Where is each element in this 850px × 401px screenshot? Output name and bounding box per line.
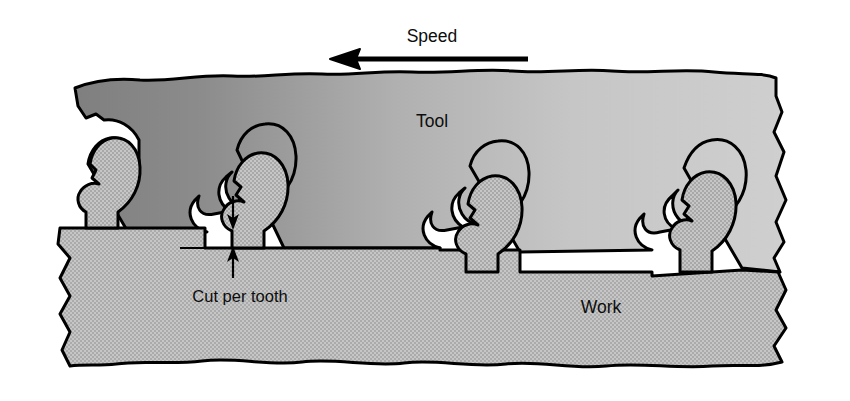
diagram-canvas: Speed Tool Work Cut per tooth: [0, 0, 850, 401]
work-label: Work: [581, 297, 622, 317]
tool-label: Tool: [416, 111, 448, 131]
broaching-diagram-svg: Speed Tool Work Cut per tooth: [0, 0, 850, 401]
speed-label: Speed: [407, 26, 458, 46]
cut-per-tooth-label: Cut per tooth: [192, 287, 287, 305]
